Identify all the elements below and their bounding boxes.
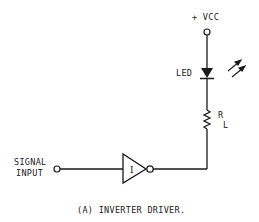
inverter-gate-icon — [123, 154, 153, 183]
signal-label-line2: INPUT — [16, 168, 43, 178]
diagram-caption: (A) INVERTER DRIVER. — [77, 205, 185, 215]
vcc-label: + VCC — [192, 12, 219, 22]
resistor-icon — [204, 110, 210, 129]
inverter-driver-schematic: + VCC LED R L SIGNAL INPUT I (A) INVERTE… — [0, 0, 259, 222]
led-icon — [200, 68, 214, 79]
signal-input-terminal-icon — [54, 166, 60, 172]
light-emission-arrows-icon — [228, 60, 245, 77]
resistor-label-r: R — [218, 110, 224, 120]
inverter-label: I — [130, 165, 134, 175]
signal-label-line1: SIGNAL — [14, 157, 47, 167]
resistor-label-l: L — [223, 120, 228, 130]
vcc-terminal-icon — [204, 29, 210, 35]
led-label: LED — [176, 68, 192, 78]
